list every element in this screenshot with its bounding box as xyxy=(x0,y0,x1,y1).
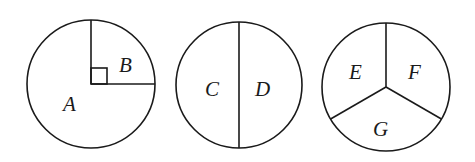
circle-partition-diagram: A B C D E F G xyxy=(0,0,475,162)
circle-2: C D xyxy=(176,22,302,148)
right-angle-marker xyxy=(91,68,107,84)
circle-3-radius-lower-left xyxy=(331,87,386,119)
region-label-f: F xyxy=(407,60,421,84)
region-label-d: D xyxy=(254,77,270,101)
circle-3-radius-lower-right xyxy=(386,87,441,119)
region-label-a: A xyxy=(61,92,76,116)
circle-1: A B xyxy=(27,20,155,148)
region-label-e: E xyxy=(348,60,362,84)
region-label-g: G xyxy=(373,117,388,141)
circle-3: E F G xyxy=(322,23,450,151)
region-label-c: C xyxy=(205,77,220,101)
region-label-b: B xyxy=(119,53,132,77)
